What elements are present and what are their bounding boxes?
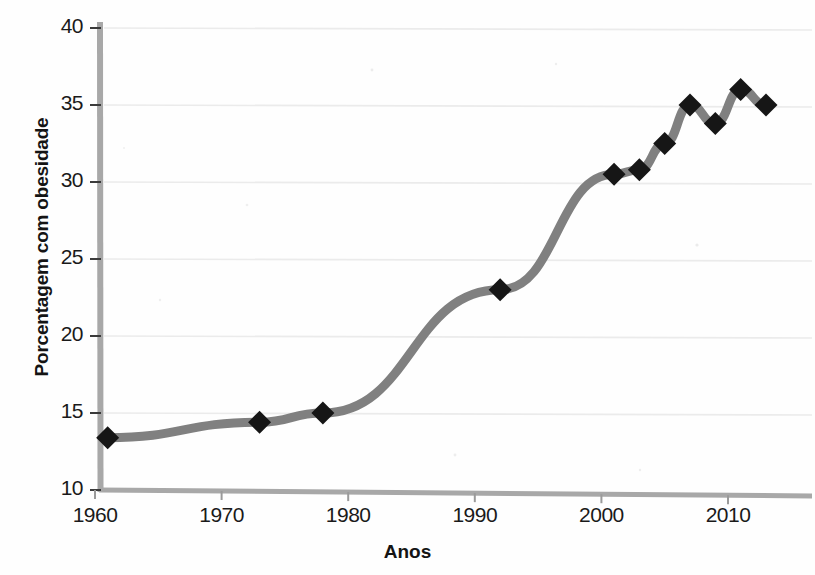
y-tick-label: 30 [27,168,83,192]
chart-svg [0,0,815,575]
y-tick-label: 15 [27,399,83,423]
x-axis-title: Anos [0,541,815,563]
x-tick-label: 2010 [688,503,768,527]
x-tick-label: 2000 [561,503,641,527]
x-tick-label: 1970 [182,503,262,527]
obesity-line-chart: Porcentagem com obesidade 10152025303540… [0,0,815,575]
gridlines [104,28,812,415]
x-tick-label: 1990 [435,503,515,527]
plot-area [0,0,815,575]
y-tick-label: 40 [27,14,83,38]
x-tick-label: 1960 [55,503,135,527]
y-tick-label: 20 [27,322,83,346]
x-tick-label: 1980 [308,503,388,527]
y-tick-label: 10 [27,476,83,500]
y-tick-label: 25 [27,245,83,269]
y-tick-label: 35 [27,91,83,115]
